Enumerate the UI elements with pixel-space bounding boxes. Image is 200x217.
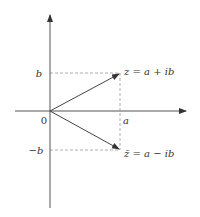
x-tick-label-a: a xyxy=(123,115,129,126)
y-tick-label-neg-b: −b xyxy=(29,145,44,156)
point-label-z-conjugate: z̄ = a − ib xyxy=(123,148,174,159)
origin-label: 0 xyxy=(41,115,47,126)
point-label-z: z = a + ib xyxy=(123,66,174,77)
complex-plane-diagram: b −b 0 a z = a + ib z̄ = a − ib xyxy=(0,0,200,217)
y-tick-label-b: b xyxy=(36,68,42,79)
vector-z-conjugate xyxy=(50,111,119,149)
vector-z xyxy=(50,74,119,111)
